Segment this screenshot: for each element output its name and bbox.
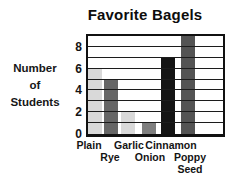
- y-tick-8: 8: [54, 41, 82, 53]
- y-tick-6: 6: [54, 63, 82, 75]
- gridline-1: [88, 122, 223, 123]
- gridline-4: [88, 89, 223, 90]
- x-label-poppy-seed: Poppy Seed: [160, 151, 220, 175]
- plot-area: [86, 34, 225, 137]
- bar-chart: Favorite Bagels Number of Students 02468…: [0, 0, 226, 194]
- bar-poppy-seed: [181, 36, 195, 134]
- y-tick-4: 4: [54, 84, 82, 96]
- gridline-6: [88, 68, 223, 69]
- gridline-2: [88, 111, 223, 112]
- gridline-5: [88, 79, 223, 80]
- y-tick-2: 2: [54, 106, 82, 118]
- gridline-3: [88, 100, 223, 101]
- x-label-cinnamon: Cinnamon: [141, 139, 201, 151]
- bar-onion: [142, 123, 156, 134]
- gridline-7: [88, 57, 223, 58]
- chart-title: Favorite Bagels: [66, 6, 224, 23]
- bar-rye: [104, 80, 118, 134]
- gridline-8: [88, 46, 223, 47]
